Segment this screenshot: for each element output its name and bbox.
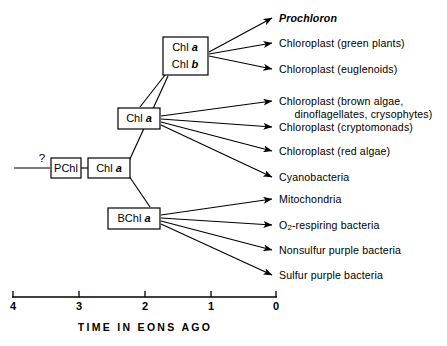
tip-label-chloroplast-brown-algae: Chloroplast (brown algae, dinoflagellate… — [279, 95, 433, 120]
node-pchl-label: PChl — [54, 162, 78, 174]
tip-label-chloroplast-red-algae: Chloroplast (red algae) — [279, 145, 390, 158]
branch-root-to-bchla — [129, 176, 150, 207]
tip-label-o2-respiring-bacteria: O2-respiring bacteria — [279, 219, 380, 235]
node-bchla-label: BChl a — [117, 212, 150, 224]
tip-line-2: dinoflagellates, crysophytes) — [279, 108, 433, 120]
tip-label-chloroplast-green-plants: Chloroplast (green plants) — [279, 37, 405, 50]
pigment-evolution-figure: ? PChl Chl a Chl a Chl b Chl a BChl a — [0, 0, 447, 346]
tip-label-sulfur-purple-bacteria: Sulfur purple bacteria — [279, 269, 383, 282]
tip-label-mitochondria: Mitochondria — [279, 193, 341, 206]
uncertainty-marker: ? — [39, 152, 45, 164]
arrow-to-o2-respiring-bacteria — [161, 218, 272, 225]
arrow-to-chloroplast-euglenoids — [209, 56, 272, 69]
axis-label-1: 1 — [203, 300, 219, 312]
node-chlab-label-line2: Chl b — [172, 58, 199, 70]
tip-label-chloroplast-cryptomonads: Chloroplast (cryptomonads) — [279, 121, 413, 134]
axis-label-3: 3 — [71, 300, 87, 312]
tip-label-nonsulfur-purple-bacteria: Nonsulfur purple bacteria — [279, 244, 401, 257]
arrow-to-cyanobacteria — [161, 125, 272, 177]
node-chla-root-label: Chl a — [96, 162, 122, 174]
arrow-to-nonsulfur-purple-bacteria — [161, 221, 272, 250]
axis-caption: TIME IN EONS AGO — [0, 321, 290, 333]
node-chlab-label-line1: Chl a — [172, 41, 198, 53]
axis-label-4: 4 — [5, 300, 21, 312]
arrow-to-chloroplast-brown-algae — [161, 101, 272, 116]
arrow-to-mitochondria — [161, 199, 272, 215]
axis-label-0: 0 — [268, 300, 284, 312]
tip-label-cyanobacteria: Cyanobacteria — [279, 171, 349, 184]
node-chla-mid-label: Chl a — [126, 112, 152, 124]
arrow-to-chloroplast-green-plants — [209, 43, 272, 54]
tip-label-prochloron: Prochloron — [279, 12, 337, 25]
axis-label-2: 2 — [137, 300, 153, 312]
diagram-svg: ? PChl Chl a Chl a Chl b Chl a BChl a — [0, 0, 447, 346]
tip-line-1: Chloroplast (brown algae, — [279, 95, 403, 107]
tip-label-chloroplast-euglenoids: Chloroplast (euglenoids) — [279, 63, 397, 76]
arrow-to-sulfur-purple-bacteria — [161, 224, 272, 275]
o2-text-after: -respiring bacteria — [292, 219, 380, 231]
arrow-to-prochloron — [209, 18, 272, 52]
